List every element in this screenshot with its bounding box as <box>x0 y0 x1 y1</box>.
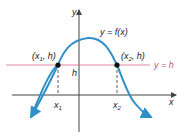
diagram: y x y = f(x) y = h h (x1, h) (x2, h) x1 … <box>0 0 195 138</box>
curve-f-x <box>31 38 151 117</box>
point-x1-h <box>55 62 60 67</box>
hline-label: y = h <box>153 60 174 70</box>
curve-label: y = f(x) <box>99 27 128 37</box>
point-1-label: (x1, h) <box>32 51 56 62</box>
point-x2-h <box>114 62 119 67</box>
point-2-label: (x2, h) <box>121 51 145 62</box>
x2-tick-label: x2 <box>112 100 122 111</box>
x1-tick-label: x1 <box>53 100 62 111</box>
h-label: h <box>72 68 77 78</box>
x-axis-label: x <box>168 97 174 107</box>
y-axis-label: y <box>71 7 77 17</box>
